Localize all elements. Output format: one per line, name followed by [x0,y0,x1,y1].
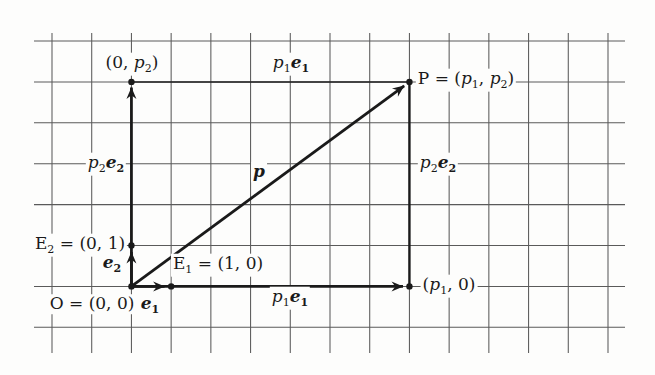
label-text: p [253,161,265,181]
label-text: p [490,68,501,88]
label-text: E [173,253,185,273]
label-text: p [420,152,431,172]
label-text: ( [423,274,430,294]
label-subscript: 1 [152,303,160,316]
y-proj-dot [128,79,134,85]
label-subscript: 1 [284,62,291,75]
label-text: e [106,152,117,172]
label-subscript: 1 [472,78,479,91]
origin-dot [128,283,134,289]
label-point-p1-0: (p1, 0) [421,275,478,298]
label-subscript: 1 [301,296,309,309]
label-vector-p: p [251,162,267,182]
textbook-figure: (0, p2) p1e1 P = (p1, p2) p2e2 p p2e2 E2… [0,0,655,375]
label-text: p [272,286,283,306]
label-text: ) [152,52,159,72]
label-subscript: 2 [449,162,457,175]
label-text: , 0) [447,274,475,294]
label-text: p [88,152,99,172]
label-subscript: 2 [99,162,106,175]
vector-diagram-canvas [0,0,655,375]
label-text: e [103,252,114,272]
label-text: p [461,68,472,88]
label-text: p [273,52,284,72]
x-proj-dot [406,283,412,289]
label-point-O: O = (0, 0) [48,294,137,314]
label-text: O = (0, 0) [50,293,135,313]
label-p1e1-top: p1e1 [271,53,311,76]
label-text: ) [508,68,515,88]
label-vector-e2: e2 [101,253,123,276]
label-text: e [290,286,301,306]
label-text: e [141,293,152,313]
label-point-E1: E1 = (1, 0) [171,254,265,277]
label-text: , [479,68,490,88]
p-dot [406,79,412,85]
label-text: (0, [106,52,134,72]
label-text: e [291,52,302,72]
label-subscript: 2 [117,162,125,175]
label-subscript: 2 [501,78,508,91]
label-text: p [134,52,145,72]
label-subscript: 2 [114,262,122,275]
label-subscript: 1 [302,62,310,75]
label-p2e2-right: p2e2 [418,153,458,176]
label-text: p [429,274,440,294]
label-text: = (0, 1) [54,233,125,253]
e2-dot [128,242,134,248]
label-subscript: 1 [283,296,290,309]
label-text: = (1, 0) [192,253,263,273]
label-text: e [438,152,449,172]
label-p1e1-bottom: p1e1 [270,287,310,310]
label-point-0-p2: (0, p2) [104,53,161,76]
label-point-P: P = (p1, p2) [416,69,516,92]
e1-dot [168,283,174,289]
label-p2e2-left: p2e2 [86,153,126,176]
label-subscript: 2 [431,162,438,175]
label-subscript: 1 [440,284,447,297]
label-text: P = ( [418,68,461,88]
label-vector-e1: e1 [139,294,161,317]
label-text: E [35,233,47,253]
